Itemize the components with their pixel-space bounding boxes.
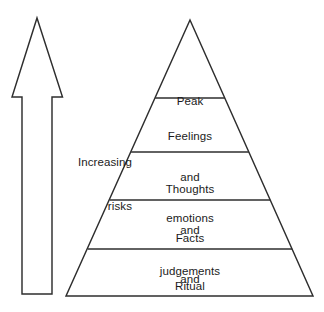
increasing-risks-line-2: risks bbox=[78, 199, 132, 214]
tier-thoughts-line-1: Thoughts bbox=[160, 183, 220, 197]
tier-ritual-line-1: Ritual bbox=[175, 280, 205, 294]
increasing-risks-line-1: Increasing bbox=[78, 155, 132, 170]
tier-feelings-line-1: Feelings bbox=[166, 130, 213, 144]
tier-facts-line-1: Facts bbox=[161, 232, 219, 246]
pyramid-diagram: Increasing risks Peak Feelings and emoti… bbox=[0, 0, 324, 312]
pyramid-tier-ritual: Ritual and cliché bbox=[175, 253, 205, 312]
up-arrow-icon bbox=[12, 18, 63, 294]
increasing-risks-label: Increasing risks bbox=[78, 126, 132, 242]
